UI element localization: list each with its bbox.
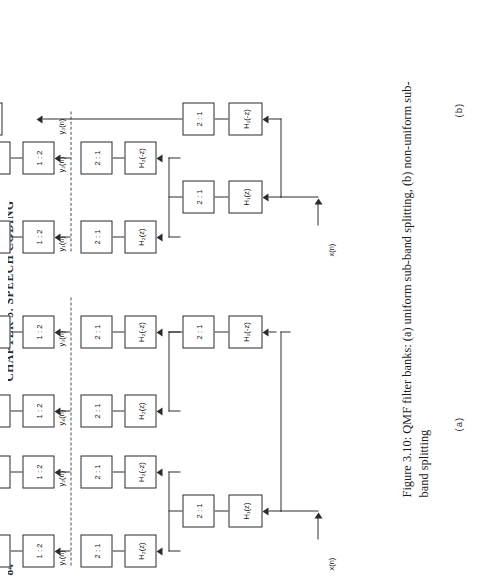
wire xyxy=(268,331,276,332)
figure-b-nonuniform-filter-bank: x(n) H₁(z) 2 : 1 H₁(-z) 2 : 1 H₂(z) H₂(-… xyxy=(28,99,388,259)
block-h2z-synthesis-a2: H₂(z) xyxy=(0,394,10,427)
wire xyxy=(168,236,180,237)
wire xyxy=(168,157,180,158)
block-h1mz-analysis-a: H₁(-z) xyxy=(228,315,262,348)
wire xyxy=(268,118,281,119)
block-h2z-synthesis-a1: H₂(z) xyxy=(0,534,10,567)
wire xyxy=(112,550,124,551)
arrow-icon xyxy=(54,407,60,415)
arrow-icon xyxy=(54,328,60,336)
wire xyxy=(168,471,180,472)
figure-a-synthesis-upper: H₂(z) H₂(-z) H₂(z) H₂(-z) 1 : 2 H₁(z) xyxy=(0,273,30,573)
arrow-icon xyxy=(262,328,268,336)
wire xyxy=(60,236,70,237)
arrow-icon xyxy=(156,547,162,555)
block-h2z-synthesis-b: H₂(z) xyxy=(0,220,10,253)
block-h2z-analysis-a1: H₂(z) xyxy=(124,534,156,567)
wire xyxy=(112,331,124,332)
wire xyxy=(168,550,180,551)
wire xyxy=(268,196,281,197)
wire xyxy=(10,157,22,158)
block-h2mz-synthesis-a2: H₂(-z) xyxy=(0,315,10,348)
figure-a-synthesis: 1 : 2 1 : 2 1 : 2 1 : 2 xyxy=(28,273,72,573)
wire xyxy=(112,410,124,411)
scanned-page: 84 CHAPTER 3. SPEECH CODING x(n) H₁(z) 2… xyxy=(0,0,480,581)
wire xyxy=(168,510,182,511)
arrow-icon xyxy=(54,233,60,241)
block-decimator-b4: 2 : 1 xyxy=(80,141,112,174)
wire xyxy=(214,510,228,511)
block-decimator-a6: 2 : 1 xyxy=(80,315,112,348)
wire xyxy=(168,157,169,237)
arrow-icon xyxy=(54,154,60,162)
wire xyxy=(168,471,169,551)
wire xyxy=(60,157,70,158)
figure-b-label: (b) xyxy=(452,102,463,117)
arrow-icon xyxy=(156,407,162,415)
block-h1z-analysis-b: H₁(z) xyxy=(228,180,262,213)
wire xyxy=(214,331,228,332)
wire xyxy=(10,236,22,237)
block-h1z-analysis-a: H₁(z) xyxy=(228,494,262,527)
arrow-icon xyxy=(314,198,322,204)
arrow-icon xyxy=(54,547,60,555)
wire xyxy=(317,203,318,225)
wire xyxy=(10,550,22,551)
figure-a-label: (a) xyxy=(452,416,463,431)
block-decimator-a2: 2 : 1 xyxy=(182,315,214,348)
wire xyxy=(112,236,124,237)
block-decimator-a1: 2 : 1 xyxy=(182,494,214,527)
wire xyxy=(280,331,290,332)
wire xyxy=(60,410,70,411)
wire xyxy=(214,196,228,197)
wire xyxy=(168,331,169,411)
block-h2z-analysis-b: H₂(z) xyxy=(124,220,156,253)
wire xyxy=(60,331,70,332)
figure-a-uniform-filter-bank: x(n) H₁(z) 2 : 1 H₁(-z) 2 : 1 H₂(z xyxy=(28,273,388,573)
wire xyxy=(268,510,281,511)
wire xyxy=(60,471,70,472)
wire xyxy=(280,118,281,197)
wire xyxy=(10,410,22,411)
block-h2mz-analysis-b: H₂(-z) xyxy=(124,141,156,174)
wire xyxy=(168,331,180,332)
wire xyxy=(280,196,318,197)
arrow-icon xyxy=(262,115,268,123)
figure-b-synthesis: 1 : 2 1 : 2 1 : 2 xyxy=(28,99,72,259)
block-h2mz-analysis-a2: H₂(-z) xyxy=(124,315,156,348)
arrow-icon xyxy=(314,512,322,518)
arrow-icon xyxy=(156,328,162,336)
block-h2z-analysis-a2: H₂(z) xyxy=(124,394,156,427)
arrow-icon xyxy=(156,233,162,241)
wire xyxy=(10,331,22,332)
wire xyxy=(60,550,70,551)
block-decimator-a4: 2 : 1 xyxy=(80,455,112,488)
block-h2mz-synthesis-b: H₂(-z) xyxy=(0,141,10,174)
arrow-icon xyxy=(262,193,268,201)
wire xyxy=(214,118,228,119)
wire xyxy=(280,510,318,511)
block-decimator-b2: 2 : 1 xyxy=(182,102,214,135)
arrow-icon xyxy=(156,154,162,162)
block-h1mz-analysis-b: H₁(-z) xyxy=(228,102,262,135)
arrow-icon xyxy=(54,468,60,476)
wire xyxy=(112,157,124,158)
block-h2mz-analysis-a1: H₂(-z) xyxy=(124,455,156,488)
figure-caption: Figure 3.10: QMF filter banks: (a) unifo… xyxy=(398,77,432,497)
block-decimator-a3: 2 : 1 xyxy=(80,534,112,567)
block-h2mz-synthesis-a1: H₂(-z) xyxy=(0,455,10,488)
wire xyxy=(280,331,281,511)
wire xyxy=(168,196,182,197)
figure-b-synthesis-upper: H₂(z) H₂(-z) 1 : 2 H₁(z) H₁(-z) x̂(n) xyxy=(0,99,30,259)
block-decimator-a5: 2 : 1 xyxy=(80,394,112,427)
wire xyxy=(10,471,22,472)
signal-label-input-b: x(n) xyxy=(326,243,335,256)
signal-label-input-a: x(n) xyxy=(326,557,335,570)
wire xyxy=(112,471,124,472)
wire xyxy=(317,517,318,539)
arrow-icon xyxy=(262,507,268,515)
wire xyxy=(168,410,180,411)
arrow-icon xyxy=(156,468,162,476)
rotated-page-content: 84 CHAPTER 3. SPEECH CODING x(n) H₁(z) 2… xyxy=(0,0,480,581)
block-decimator-b1: 2 : 1 xyxy=(182,180,214,213)
